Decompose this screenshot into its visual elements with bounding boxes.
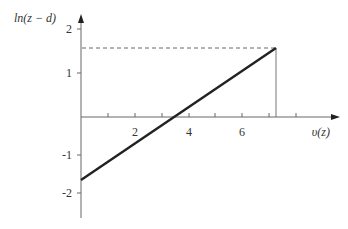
y-axis-label: ln(z − d)	[14, 11, 56, 25]
x-ticks	[108, 113, 296, 117]
y-tick-label-1: 1	[66, 66, 72, 80]
x-axis-arrow-icon	[331, 114, 340, 120]
x-axis-label: υ(z)	[312, 125, 330, 139]
x-tick-label-2: 2	[132, 125, 138, 139]
x-tick-label-4: 4	[186, 125, 192, 139]
y-tick-label-2: 2	[66, 22, 72, 36]
y-axis-arrow-icon	[78, 14, 84, 23]
data-line	[81, 48, 276, 180]
y-tick-label-minus-1: -1	[62, 148, 72, 162]
y-tick-label-minus-2: -2	[62, 186, 72, 200]
chart-canvas: 2 1 -1 -2 2 4 6 ln(z − d) υ(z)	[0, 0, 348, 229]
x-tick-label-6: 6	[239, 125, 245, 139]
y-ticks	[77, 29, 81, 193]
